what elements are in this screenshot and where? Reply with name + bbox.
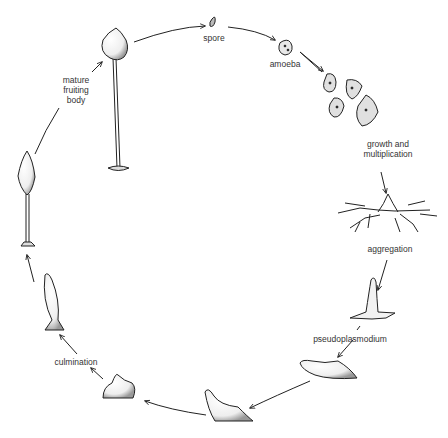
diagram-drawing	[0, 0, 448, 438]
pseudoplasmodium-icon	[350, 278, 395, 319]
stage-label-culmination: culmination	[46, 357, 106, 367]
stage-label-growth: growth and multiplication	[347, 139, 429, 159]
amoebae-group-icon	[324, 74, 378, 126]
elongating-fruiting-body-icon	[44, 274, 64, 330]
mature-fruiting-body-icon	[102, 28, 129, 171]
stage-label-aggregation: aggregation	[360, 244, 420, 254]
stage-label-mature-fruiting-body: mature fruiting body	[56, 75, 96, 105]
culmination-start-icon	[103, 374, 135, 398]
amoeba-icon	[279, 40, 292, 55]
stage-label-spore: spore	[194, 33, 234, 43]
stage-label-pseudoplasmodium: pseudoplasmodium	[300, 334, 400, 344]
slug-icon	[300, 360, 357, 378]
life-cycle-diagram: spore amoeba growth and multiplication a…	[0, 0, 448, 438]
stage-label-amoeba: amoeba	[262, 59, 308, 69]
rising-slug-icon	[205, 390, 253, 421]
aggregation-icon	[338, 194, 437, 232]
spore-icon	[210, 17, 215, 26]
early-fruiting-body-icon	[18, 151, 35, 246]
